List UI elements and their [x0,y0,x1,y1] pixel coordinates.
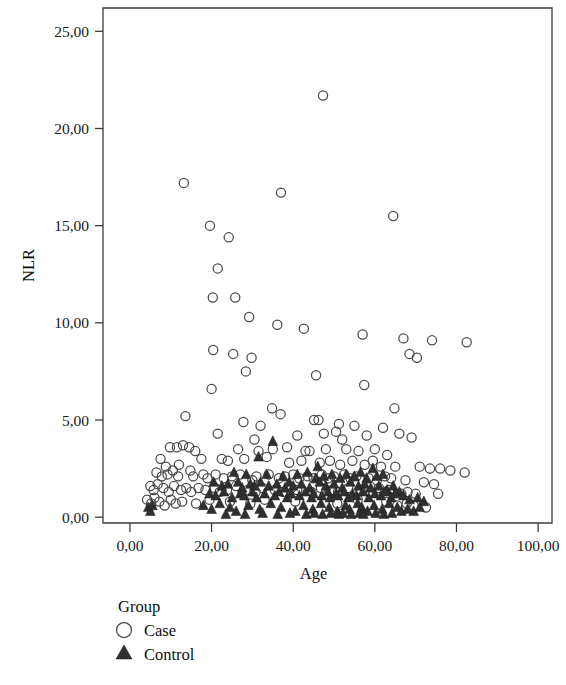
data-point-case [407,433,416,442]
data-point-case [209,345,218,354]
data-point-case [179,178,188,187]
data-point-case [234,445,243,454]
data-point-case [378,423,387,432]
data-point-case [239,417,248,426]
legend: Group Case Control [116,597,195,664]
x-axis-title: Age [300,564,328,583]
data-point-case [462,338,471,347]
data-point-case [360,380,369,389]
data-point-case [299,324,308,333]
data-point-case [382,450,391,459]
data-point-case [401,476,410,485]
data-point-case [434,489,443,498]
data-point-case [172,443,181,452]
legend-label-case: Case [144,621,176,640]
data-point-case [224,233,233,242]
data-point-case [427,336,436,345]
x-tick-label: 0,00 [116,537,143,554]
data-point-case [336,460,345,469]
data-point-case [213,429,222,438]
data-point-control [240,509,250,519]
y-tick-label: 0,00 [62,509,89,526]
data-point-control [413,492,423,502]
data-point-case [425,464,434,473]
data-point-case [174,460,183,469]
data-point-case [390,404,399,413]
data-point-case [245,312,254,321]
data-point-case [325,456,334,465]
x-tick-label: 80,00 [439,537,474,554]
data-point-case [217,454,226,463]
data-point-case [318,91,327,100]
data-point-case [191,499,200,508]
data-point-case [415,462,424,471]
data-point-case [174,472,183,481]
data-point-case [178,497,187,506]
x-tick-label: 20,00 [194,537,229,554]
y-tick-label: 15,00 [54,217,89,234]
data-point-case [362,431,371,440]
data-point-case [189,472,198,481]
data-point-case [186,466,195,475]
y-axis-title: NLR [19,249,38,282]
data-point-case [419,478,428,487]
data-point-case [370,445,379,454]
data-point-case [268,445,277,454]
data-point-control [264,481,274,491]
data-point-case [223,456,232,465]
data-point-case [207,384,216,393]
data-point-case [460,468,469,477]
data-point-case [178,441,187,450]
data-point-case [405,349,414,358]
data-point-case [358,330,367,339]
legend-title: Group [118,597,160,616]
data-point-case [169,481,178,490]
data-point-case [376,462,385,471]
data-point-case [354,446,363,455]
data-point-case [293,431,302,440]
data-point-case [297,456,306,465]
data-point-case [331,427,340,436]
data-point-case [395,429,404,438]
data-point-control [303,467,313,477]
data-point-case [276,410,285,419]
legend-label-control: Control [144,645,195,664]
data-point-case [205,221,214,230]
data-point-case [348,456,357,465]
scatter-plot-figure: 0,005,0010,0015,0020,0025,000,0020,0040,… [0,0,566,685]
data-point-case [321,445,330,454]
data-point-case [231,293,240,302]
data-point-case [240,454,249,463]
data-point-case [273,320,282,329]
data-point-case [429,480,438,489]
data-point-case [229,349,238,358]
data-point-case [338,435,347,444]
data-point-case [208,293,217,302]
y-tick-label: 20,00 [54,120,89,137]
data-point-case [446,466,455,475]
data-point-case [319,429,328,438]
y-tick-label: 10,00 [54,314,89,331]
plot-canvas: 0,005,0010,0015,0020,0025,000,0020,0040,… [0,0,566,685]
x-tick-label: 60,00 [357,537,392,554]
data-point-case [256,421,265,430]
data-point-case [247,353,256,362]
data-point-case [285,458,294,467]
data-point-case [213,264,222,273]
data-points-group [142,91,471,519]
data-point-case [436,464,445,473]
legend-marker-control [116,645,132,659]
data-point-case [399,334,408,343]
x-tick-label: 40,00 [276,537,311,554]
data-point-case [282,443,291,452]
data-point-case [197,454,206,463]
legend-marker-case [117,623,132,638]
data-point-case [262,452,271,461]
y-tick-label: 25,00 [54,23,89,40]
data-point-case [391,462,400,471]
data-point-case [176,485,185,494]
data-point-case [311,371,320,380]
data-point-control [268,436,278,446]
data-point-case [250,435,259,444]
plot-frame [103,8,552,523]
